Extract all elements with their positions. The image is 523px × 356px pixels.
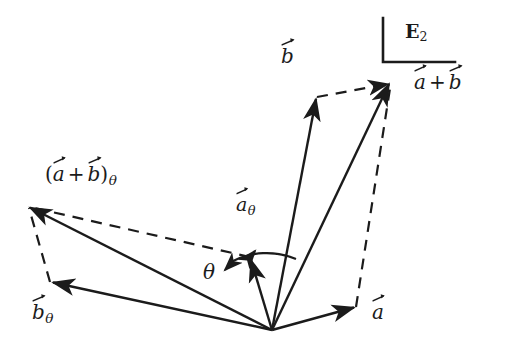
b-letter: b <box>32 300 45 324</box>
label-a-plus-b-theta: (a+b)θ <box>45 162 117 187</box>
vec-b-glyph: b <box>281 44 294 66</box>
label-a-plus-b: a+b <box>414 70 462 92</box>
a-letter: a <box>372 300 384 324</box>
plus-sign: + <box>429 70 446 94</box>
b-letter: b <box>449 70 462 94</box>
label-vector-b-theta: bθ <box>32 300 54 325</box>
a-letter: a <box>414 70 426 94</box>
vector-b <box>272 99 316 330</box>
paren-open: ( <box>45 162 53 186</box>
plus-sign: + <box>68 162 85 186</box>
e2-subscript: 2 <box>419 29 427 44</box>
label-theta-angle: θ <box>203 262 215 282</box>
vector-diagram: E2 a+b b a aθ θ (a+b)θ bθ <box>0 0 523 356</box>
vec-b-glyph: b <box>449 70 462 92</box>
vector-ab-theta <box>30 208 272 331</box>
vec-a-glyph: a <box>414 70 426 92</box>
vector-b-theta <box>53 283 272 331</box>
vec-a-theta-glyph: a <box>236 193 247 214</box>
vec-b-theta-glyph: b <box>32 300 45 322</box>
theta-subscript: θ <box>109 172 117 188</box>
vec-a-glyph: a <box>53 162 65 184</box>
label-vector-b: b <box>281 44 294 66</box>
dashed-edges-rotated <box>29 207 250 282</box>
a-letter: a <box>53 162 65 186</box>
label-vector-a: a <box>372 300 384 322</box>
vector-a-theta <box>251 260 272 330</box>
a-letter: a <box>236 193 247 215</box>
theta-subscript: θ <box>45 310 53 326</box>
b-letter: b <box>88 162 101 186</box>
vec-b-glyph: b <box>88 162 101 184</box>
vec-a-glyph: a <box>372 300 384 322</box>
label-vector-a-theta: aθ <box>236 193 256 218</box>
theta-subscript: θ <box>248 203 256 218</box>
e2-symbol: E <box>405 20 419 42</box>
dashed-edges-original <box>317 82 391 307</box>
paren-close: ) <box>100 162 108 186</box>
vector-a <box>272 308 354 331</box>
b-letter: b <box>281 44 294 68</box>
plane-label-e2: E2 <box>405 22 427 44</box>
